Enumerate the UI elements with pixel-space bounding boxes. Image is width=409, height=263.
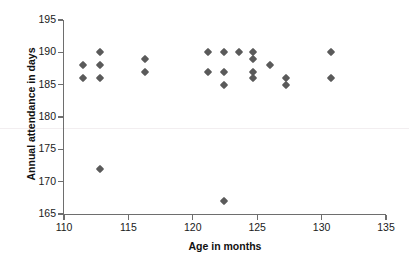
y-axis-title: Annual attendance in days bbox=[25, 19, 37, 209]
y-tick-mark bbox=[58, 116, 63, 117]
x-tick-mark bbox=[128, 215, 129, 220]
y-tick-mark bbox=[58, 19, 63, 20]
y-tick-mark bbox=[58, 52, 63, 53]
x-tick-mark bbox=[321, 215, 322, 220]
x-tick-mark bbox=[63, 215, 64, 220]
x-tick-label: 115 bbox=[108, 222, 148, 233]
y-tick-label: 165 bbox=[16, 208, 56, 219]
x-tick-label: 130 bbox=[302, 222, 342, 233]
y-tick-mark bbox=[58, 149, 63, 150]
x-tick-label: 120 bbox=[173, 222, 213, 233]
scatter-chart: 165170175180185190195 110115120125130135… bbox=[0, 0, 409, 263]
x-tick-label: 135 bbox=[366, 222, 406, 233]
x-tick-mark bbox=[257, 215, 258, 220]
x-axis-title: Age in months bbox=[64, 240, 386, 252]
y-tick-mark bbox=[58, 84, 63, 85]
x-tick-label: 125 bbox=[237, 222, 277, 233]
x-tick-label: 110 bbox=[44, 222, 84, 233]
x-tick-mark bbox=[385, 215, 386, 220]
y-tick-mark bbox=[58, 181, 63, 182]
x-tick-mark bbox=[192, 215, 193, 220]
y-tick-mark bbox=[58, 213, 63, 214]
